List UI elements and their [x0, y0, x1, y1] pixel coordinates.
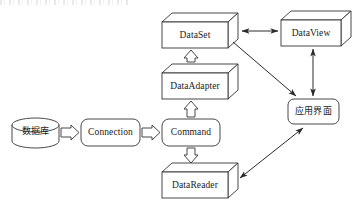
- edge-command-to-datareader: [184, 148, 198, 163]
- node-dataview[interactable]: [281, 11, 351, 46]
- edge-dataset-to-appui: [233, 42, 296, 96]
- diagram-graphics: [0, 0, 356, 208]
- node-database[interactable]: [12, 118, 59, 148]
- node-dataset[interactable]: [162, 13, 238, 48]
- edge-connection-to-command: [142, 125, 160, 140]
- edge-datareader-to-appui: [240, 128, 303, 178]
- node-command[interactable]: [162, 119, 220, 146]
- node-appui[interactable]: [288, 99, 339, 124]
- diagram-canvas: 数据库 Connection Command DataSet DataAdapt…: [0, 0, 356, 208]
- edge-dataadapter-to-dataset: [184, 50, 198, 62]
- edge-command-to-dataadapter: [184, 101, 198, 117]
- node-datareader[interactable]: [162, 163, 238, 198]
- edge-database-to-connection: [61, 125, 79, 140]
- node-connection[interactable]: [81, 119, 140, 146]
- node-dataadapter[interactable]: [162, 64, 238, 99]
